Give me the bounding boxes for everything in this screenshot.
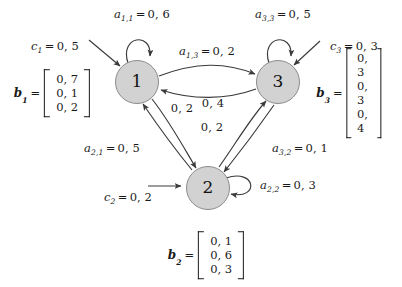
vector-b3-values: 0, 3 0, 3 0, 4 bbox=[351, 48, 377, 138]
value-mid-upper-right: 0, 4 bbox=[202, 96, 224, 110]
value-mid-left: 0, 2 bbox=[171, 101, 193, 115]
edge-label-a32: a3,2=0, 1 bbox=[272, 141, 328, 155]
vector-b1-name: b1 bbox=[14, 86, 29, 100]
vector-b2-subscript: 2 bbox=[176, 258, 181, 267]
equals-c1: = bbox=[43, 39, 57, 53]
var-a32: a bbox=[272, 141, 279, 155]
vector-b2-values: 0, 1 0, 6 0, 3 bbox=[204, 231, 238, 279]
vector-b1-value-1: 0, 1 bbox=[56, 86, 78, 100]
output-vector-b1: b1 = 0, 7 0, 1 0, 2 bbox=[14, 69, 90, 117]
self-loop-label-a11: a1,1=0, 6 bbox=[114, 7, 170, 21]
vector-b3-equals: = bbox=[331, 86, 347, 100]
edge-label-a21: a2,1=0, 5 bbox=[84, 141, 140, 155]
value-c1: 0, 5 bbox=[57, 39, 79, 53]
edge-label-mid-lower: 0, 2 bbox=[201, 120, 223, 134]
state-node-1-label: 1 bbox=[132, 73, 143, 90]
edge-1-to-3 bbox=[159, 65, 255, 76]
vector-b2-equals: = bbox=[183, 248, 199, 262]
var-a11: a bbox=[114, 7, 121, 21]
input-label-c2: c2=0, 2 bbox=[104, 190, 152, 204]
sub-a33: 3,3 bbox=[262, 14, 274, 23]
vector-b3-value-1: 0, 3 bbox=[357, 79, 371, 107]
vector-b3-subscript: 3 bbox=[325, 96, 330, 105]
state-node-2-label: 2 bbox=[203, 179, 214, 196]
edge-label-mid-left: 0, 2 bbox=[171, 101, 193, 115]
equals-a21: = bbox=[103, 141, 117, 155]
vector-b1-equals: = bbox=[29, 86, 45, 100]
output-vector-b2: b2 = 0, 1 0, 6 0, 3 bbox=[168, 231, 244, 279]
edge-label-a13: a1,3=0, 2 bbox=[179, 44, 235, 58]
vector-b1-subscript: 1 bbox=[22, 96, 27, 105]
state-node-3[interactable]: 3 bbox=[256, 60, 300, 104]
edge-2-to-3 bbox=[219, 101, 266, 167]
value-a32: 0, 1 bbox=[306, 141, 328, 155]
equals-a22: = bbox=[279, 178, 293, 192]
var-a13: a bbox=[179, 44, 186, 58]
input-label-c1: c1=0, 5 bbox=[31, 39, 79, 53]
sub-c2: 2 bbox=[111, 197, 116, 206]
vector-b3-value-0: 0, 3 bbox=[357, 51, 371, 79]
vector-b1-value-2: 0, 2 bbox=[56, 100, 78, 114]
vector-b3-bracket-right bbox=[377, 48, 381, 138]
equals-a13: = bbox=[198, 44, 212, 58]
edge-label-mid-upper-right: 0, 4 bbox=[202, 96, 224, 110]
self-loop-label-a33: a3,3=0, 5 bbox=[255, 7, 311, 21]
vector-b3-name: b3 bbox=[316, 86, 331, 100]
vector-b1-value-0: 0, 7 bbox=[56, 72, 78, 86]
value-a13: 0, 2 bbox=[213, 44, 235, 58]
vector-b1-bracket-right bbox=[84, 69, 90, 117]
sub-a13: 1,3 bbox=[186, 51, 198, 60]
sub-a11: 1,1 bbox=[121, 14, 133, 23]
vector-b2-value-2: 0, 3 bbox=[210, 262, 232, 276]
state-node-2[interactable]: 2 bbox=[186, 166, 230, 210]
var-c1: c bbox=[31, 39, 38, 53]
sub-c1: 1 bbox=[38, 46, 43, 55]
var-a22: a bbox=[260, 178, 267, 192]
equals-a32: = bbox=[291, 141, 305, 155]
vector-b2-value-1: 0, 6 bbox=[210, 248, 232, 262]
vector-b1-values: 0, 7 0, 1 0, 2 bbox=[50, 69, 84, 117]
equals-a33: = bbox=[274, 7, 288, 21]
value-a11: 0, 6 bbox=[148, 7, 170, 21]
vector-b2-value-0: 0, 1 bbox=[210, 234, 232, 248]
var-a33: a bbox=[255, 7, 262, 21]
vector-b3-value-2: 0, 4 bbox=[357, 107, 371, 135]
sub-a21: 2,1 bbox=[91, 148, 103, 157]
value-a22: 0, 3 bbox=[294, 178, 316, 192]
value-mid-lower: 0, 2 bbox=[201, 120, 223, 134]
self-loop-label-a22: a2,2=0, 3 bbox=[260, 178, 316, 192]
diagram-canvas: 1 3 2 a1,1=0, 6 a3,3=0, 5 a2,2=0, 3 a1,3… bbox=[0, 0, 402, 287]
equals-a11: = bbox=[133, 7, 147, 21]
state-node-1[interactable]: 1 bbox=[115, 60, 159, 104]
value-a21: 0, 5 bbox=[118, 141, 140, 155]
output-vector-b3: b3 = 0, 3 0, 3 0, 4 bbox=[316, 48, 381, 138]
sub-a32: 3,2 bbox=[279, 148, 291, 157]
edge-3-to-2 bbox=[224, 105, 274, 172]
value-c2: 0, 2 bbox=[130, 190, 152, 204]
vector-b2-bracket-right bbox=[238, 231, 244, 279]
sub-a22: 2,2 bbox=[267, 185, 279, 194]
equals-c2: = bbox=[116, 190, 130, 204]
input-arrow-c1 bbox=[89, 40, 120, 66]
state-node-3-label: 3 bbox=[273, 73, 284, 90]
var-a21: a bbox=[84, 141, 91, 155]
var-c2: c bbox=[104, 190, 111, 204]
vector-b2-name: b2 bbox=[168, 248, 183, 262]
value-a33: 0, 5 bbox=[289, 7, 311, 21]
